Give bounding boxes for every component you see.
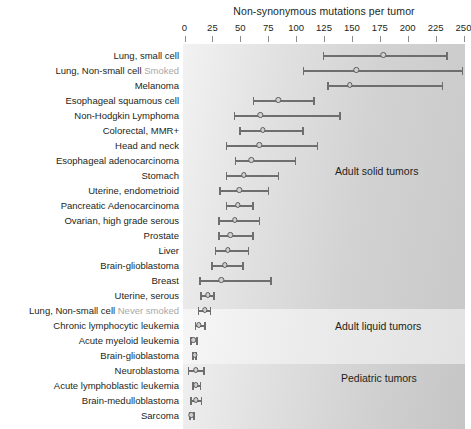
whisker-line: [234, 115, 341, 117]
x-tick-label-250: 250: [456, 22, 471, 33]
x-tick-label-175: 175: [372, 22, 388, 33]
whisker-cap-high: [248, 247, 250, 255]
chart-row[interactable]: Sarcoma: [0, 407, 465, 424]
x-tick-mark-0: [185, 36, 186, 42]
whisker-cap-low: [215, 247, 217, 255]
whisker-line: [218, 235, 254, 237]
whisker-cap-high: [270, 277, 272, 285]
whisker-cap-high: [213, 292, 215, 300]
x-tick-mark-250: [464, 36, 465, 42]
whisker-cap-low: [226, 172, 228, 180]
whisker-cap-high: [317, 142, 319, 150]
whisker-cap-high: [339, 112, 341, 120]
whisker-cap-low: [199, 277, 201, 285]
whisker-line: [226, 175, 280, 177]
x-axis-tick-labels: 0255075100125150175200225250: [0, 22, 465, 34]
whisker-cap-high: [268, 187, 270, 195]
x-tick-label-200: 200: [400, 22, 416, 33]
whisker-cap-high: [200, 382, 202, 390]
whisker-cap-high: [446, 52, 448, 60]
whisker-cap-high: [204, 322, 206, 330]
row-whisker-group: [0, 407, 465, 424]
x-tick-label-100: 100: [288, 22, 304, 33]
x-tick-label-75: 75: [263, 22, 274, 33]
whisker-cap-low: [327, 82, 329, 90]
x-tick-mark-125: [324, 36, 325, 42]
whisker-cap-low: [253, 97, 255, 105]
whisker-cap-low: [219, 187, 221, 195]
whisker-cap-low: [234, 112, 236, 120]
whisker-cap-high: [313, 97, 315, 105]
x-axis-ticks: [0, 36, 465, 43]
whisker-cap-high: [201, 397, 203, 405]
x-tick-mark-100: [296, 36, 297, 42]
whisker-cap-high: [203, 367, 205, 375]
whisker-cap-high: [259, 217, 261, 225]
x-tick-label-0: 0: [182, 22, 187, 33]
whisker-cap-low: [303, 67, 305, 75]
whisker-line: [327, 85, 443, 87]
whisker-line: [239, 130, 304, 132]
whisker-cap-low: [200, 292, 202, 300]
x-tick-label-125: 125: [316, 22, 332, 33]
whisker-cap-low: [190, 397, 192, 405]
whisker-line: [219, 190, 269, 192]
whisker-cap-low: [198, 307, 200, 315]
x-tick-mark-200: [408, 36, 409, 42]
whisker-cap-high: [295, 157, 297, 165]
x-tick-mark-50: [240, 36, 241, 42]
whisker-cap-high: [210, 307, 212, 315]
x-tick-label-150: 150: [344, 22, 360, 33]
x-tick-label-225: 225: [428, 22, 444, 33]
chart-axis-title: Non-synonymous mutations per tumor: [183, 5, 465, 17]
whisker-cap-low: [323, 52, 325, 60]
x-tick-mark-225: [436, 36, 437, 42]
whisker-cap-high: [242, 262, 244, 270]
whisker-cap-high: [278, 172, 280, 180]
whisker-cap-high: [462, 67, 464, 75]
whisker-cap-low: [218, 217, 220, 225]
whisker-line: [199, 280, 272, 282]
whisker-cap-low: [218, 232, 220, 240]
x-tick-mark-150: [352, 36, 353, 42]
band-label-adult-liquid-tumors: Adult liquid tumors: [335, 320, 421, 332]
whisker-cap-low: [226, 202, 228, 210]
x-tick-label-50: 50: [235, 22, 246, 33]
whisker-line: [303, 70, 464, 72]
whisker-cap-low: [239, 127, 241, 135]
whisker-line: [218, 220, 260, 222]
x-tick-mark-175: [380, 36, 381, 42]
whisker-cap-high: [442, 82, 444, 90]
whisker-cap-high: [252, 202, 254, 210]
whisker-cap-high: [196, 337, 198, 345]
whisker-line: [253, 100, 315, 102]
band-label-adult-solid-tumors: Adult solid tumors: [335, 165, 418, 177]
whisker-line: [235, 160, 296, 162]
whisker-line: [226, 145, 319, 147]
x-tick-mark-25: [212, 36, 213, 42]
whisker-cap-high: [302, 127, 304, 135]
whisker-cap-low: [226, 142, 228, 150]
whisker-cap-low: [211, 262, 213, 270]
whisker-line: [215, 250, 250, 252]
whisker-cap-low: [188, 367, 190, 375]
x-tick-mark-75: [268, 36, 269, 42]
x-tick-label-25: 25: [207, 22, 218, 33]
whisker-line: [211, 265, 243, 267]
whisker-cap-low: [235, 157, 237, 165]
band-label-pediatric-tumors: Pediatric tumors: [341, 372, 417, 384]
whisker-cap-high: [252, 232, 254, 240]
